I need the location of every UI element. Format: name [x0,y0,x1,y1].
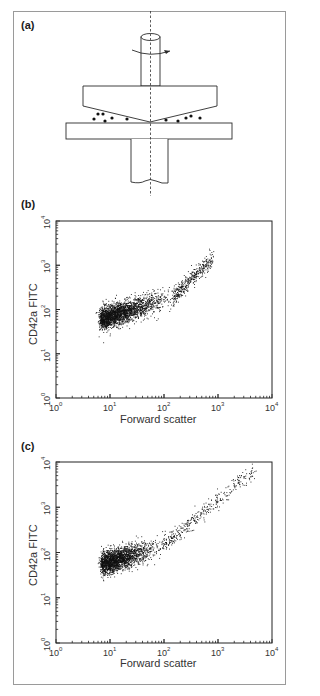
y-tick-label-c: 104 [40,457,52,470]
y-tick-label-b: 103 [40,260,52,273]
x-tick-label-b: 102 [157,401,170,413]
plot-frame-c [56,462,272,643]
y-tick-label-c: 100 [40,638,52,651]
y-tick-label-b: 101 [40,348,52,361]
y-tick-label-b: 104 [40,216,52,229]
y-tick-label-c: 101 [40,592,52,605]
y-axis-label-c: CD42a FITC [27,524,39,586]
x-axis-label-c: Forward scatter [120,657,196,669]
x-tick-label-c: 102 [157,646,170,658]
y-tick-label-c: 103 [40,502,52,515]
y-tick-label-b: 102 [40,304,52,317]
data-points-c [98,464,257,582]
y-tick-label-c: 102 [40,547,52,560]
y-axis-label-b: CD42a FITC [27,283,39,345]
x-tick-label-b: 104 [265,401,278,413]
y-tick-label-b: 100 [40,393,52,406]
x-tick-label-c: 101 [103,646,116,658]
x-tick-label-b: 103 [211,401,224,413]
x-axis-label-b: Forward scatter [120,413,196,425]
x-tick-label-b: 101 [103,401,116,413]
x-tick-label-c: 103 [211,646,224,658]
x-tick-label-c: 104 [265,646,278,658]
